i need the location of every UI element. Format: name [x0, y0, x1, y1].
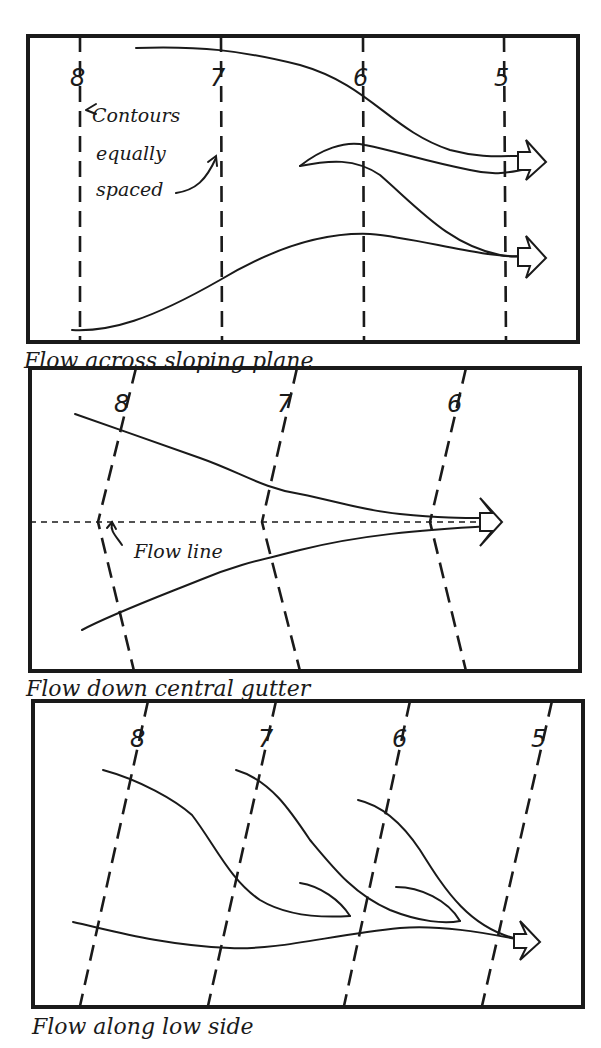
contour-label: 8: [130, 725, 145, 753]
contour-label: 7: [258, 725, 274, 753]
annotation-text: equally: [96, 142, 166, 164]
flow-line: [358, 800, 522, 940]
flow-line: [300, 144, 522, 173]
contour-label: 5: [531, 725, 546, 753]
panel-caption: Flow along low side: [31, 1014, 254, 1039]
contour-label: 6: [447, 390, 462, 418]
flow-arrow-icon: [514, 921, 540, 960]
panel-caption: Flow down central gutter: [25, 676, 312, 701]
contour-label: 8: [114, 390, 129, 418]
flow-line: [236, 770, 460, 922]
flow-arrow-icon: [480, 498, 502, 546]
panel-frame: [33, 701, 583, 1007]
contour-label: 7: [210, 64, 226, 92]
panel-low-side: 8 7 6 5 Flow along low side: [31, 701, 583, 1039]
flow-line: [73, 922, 522, 948]
panel-central-gutter: 8 7 6 Flow line Flow down central gutter: [25, 368, 580, 701]
contour-label: 6: [392, 725, 407, 753]
annotation-arrow-icon: [107, 522, 122, 545]
flow-diagram: 8 7 6 5 Contours equally spaced Flow acr…: [0, 0, 601, 1048]
annotation-text: Contours: [92, 104, 181, 126]
flow-line: [136, 48, 520, 157]
contour-label: 5: [494, 64, 509, 92]
contour-label: 6: [353, 64, 368, 92]
annotation-text: spaced: [96, 178, 163, 200]
flow-arrow-icon: [518, 140, 546, 180]
flow-line: [300, 162, 522, 257]
panel-sloping-plane: 8 7 6 5 Contours equally spaced Flow acr…: [23, 36, 578, 373]
contour-label: 8: [70, 64, 85, 92]
flow-line: [72, 234, 522, 330]
flow-line: [300, 883, 350, 916]
annotation-leader: [176, 158, 216, 193]
annotation-text: Flow line: [133, 540, 223, 562]
contour-label: 7: [277, 390, 293, 418]
flow-arrow-icon: [518, 236, 546, 278]
